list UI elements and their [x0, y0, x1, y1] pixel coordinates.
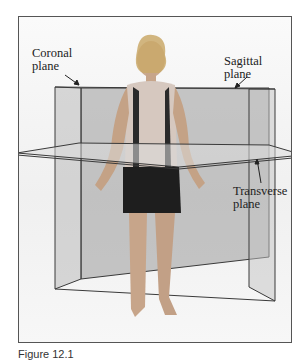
figure-caption: Figure 12.1	[18, 348, 74, 360]
coronal-plane-label: Coronal plane	[32, 47, 72, 73]
transverse-plane-label: Transverse plane	[233, 185, 287, 211]
sagittal-plane-label: Sagittal plane	[224, 55, 262, 81]
sagittal-plane-left-face	[55, 87, 81, 289]
figure-frame: Coronal plane Sagittal plane Transverse …	[18, 16, 292, 343]
